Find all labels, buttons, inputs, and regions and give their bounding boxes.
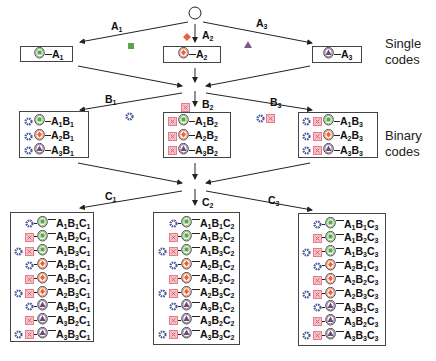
blue-star-icon [14,325,23,343]
green-square-marker-icon [128,35,134,53]
arrow-b3 [206,93,312,110]
connector-line [48,275,56,276]
code-label: A2B2C1 [56,272,91,285]
code-label: A1B2C1 [56,230,91,243]
root-node-icon [189,7,201,19]
code-label: A3B2C1 [56,314,91,327]
orange-diamond-circle-icon [178,45,189,63]
code-label: A1B1C3 [344,218,379,231]
connector-line [48,261,56,262]
connector-line [336,262,344,263]
single-code-row: A1 [34,47,64,61]
connector-line [192,316,200,317]
purple-triangle-circle-icon [37,325,48,343]
code-label: A1B3C3 [344,245,379,258]
code-label: A3 [341,48,353,61]
code-label: A2B2C2 [200,272,235,285]
code-label: A1B1C2 [200,217,235,230]
code-label: A3B1C3 [344,301,379,314]
code-label: A3B3C2 [200,328,235,341]
pink-box-icon [168,141,177,159]
code-label: A2B1C3 [344,259,379,272]
connector-line [48,302,56,303]
ternary-code-row: A3B3C1 [14,327,91,341]
connector-line [48,330,56,331]
code-label: A1B3C1 [56,244,91,257]
pink-box-icon [169,325,178,343]
code-label: A2B3C1 [56,286,91,299]
single-codes-label: Singlecodes [385,36,421,68]
connector-line [192,219,200,220]
connector-line [336,276,344,277]
code-label: A2 [196,48,208,61]
arrow-label-c2: C2 [202,196,214,209]
code-label: A3B1C1 [56,300,91,313]
connector-line [48,219,56,220]
star-and-box-marker-icon [256,109,276,127]
code-label: A2B3C3 [344,287,379,300]
blue-star-icon [302,326,311,344]
purple-triangle-marker-icon [244,34,252,52]
pink-box-icon [313,326,322,344]
pink-box-icon [313,141,322,159]
green-square-circle-icon [34,45,45,63]
code-label: A1B2 [195,115,218,128]
connector-line [48,289,56,290]
code-label: A2B1 [51,129,74,142]
connector-line [192,233,200,234]
ternary-code-row: A3B3C3 [302,328,379,342]
arrow-label-a2: A2 [202,29,214,42]
pink-box-icon [25,325,34,343]
orange-diamond-marker-icon [183,27,191,45]
code-label: A3B2 [195,144,218,157]
code-label: A2B2C3 [344,273,379,286]
arrow-label-b2: B2 [202,98,214,111]
code-label: A1 [52,48,64,61]
connector-line [189,54,196,55]
connector-line [192,302,200,303]
code-label: A1B3 [340,115,363,128]
purple-triangle-circle-icon [178,141,189,159]
code-label: A2B1C2 [200,258,235,271]
binary-codes-label: Binarycodes [385,128,422,160]
arrow-label-c1: C1 [105,190,117,203]
arrow-label-a3: A3 [256,17,268,30]
arrow-a1 [80,22,188,42]
code-label: A2B1C1 [56,258,91,271]
connector-line [336,303,344,304]
connector-line [336,290,344,291]
single-code-row: A2 [178,47,208,61]
connector-line [192,330,200,331]
purple-triangle-circle-icon [325,326,336,344]
connector-line [336,248,344,249]
blue-star-icon [24,141,33,159]
ternary-code-row: A3B3C2 [158,327,235,341]
code-label: A1B3C2 [200,244,235,257]
arrow-label-b3: B3 [270,96,282,109]
code-label: A1B1C1 [56,217,91,230]
blue-star-icon [158,325,167,343]
connector-line [192,247,200,248]
arrow-label-a1: A1 [111,20,123,33]
connector-line [336,331,344,332]
arrow-c1 [80,191,182,208]
code-label: A1B2C3 [344,231,379,244]
binary-code-row: A3B2 [167,143,218,157]
connector-line [45,54,52,55]
code-label: A2B3C2 [200,286,235,299]
code-label: A3B3C1 [56,328,91,341]
code-label: A3B1C2 [200,300,235,313]
connector-line [192,289,200,290]
binary-code-row: A3B3 [302,143,363,157]
purple-triangle-circle-icon [34,141,45,159]
connector-line [336,220,344,221]
code-label: A3B2C2 [200,314,235,327]
code-label: A3B1 [51,144,74,157]
connector-line [336,234,344,235]
code-label: A2B2 [195,129,218,142]
blue-star-marker-icon [125,107,134,125]
code-label: A2B3 [340,129,363,142]
code-label: A1B2C2 [200,230,235,243]
connector-line [192,275,200,276]
code-label: A3B3 [340,144,363,157]
